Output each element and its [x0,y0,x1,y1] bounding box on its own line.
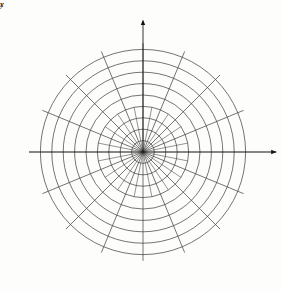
grid-spoke-112.5 [101,51,143,152]
x-axis-arrowhead [271,150,276,155]
grid-spoke-157.5 [42,110,143,152]
x-axis-label: x [0,0,4,9]
polar-chart-figure: y x [0,0,282,291]
polar-plot-canvas [0,0,282,291]
grid-spoke-292.5 [143,152,185,253]
grid-spoke-45 [143,75,220,152]
grid-spoke-67.5 [143,51,185,152]
grid-spoke-135 [66,75,143,152]
grid-spoke-225 [66,152,143,229]
grid-spoke-315 [143,152,220,229]
grid-spoke-337.5 [143,152,244,194]
grid-spoke-202.5 [42,152,143,194]
cartesian-axes [29,20,276,155]
grid-spoke-22.5 [143,110,244,152]
grid-spoke-247.5 [101,152,143,253]
y-axis-arrowhead [141,20,145,25]
